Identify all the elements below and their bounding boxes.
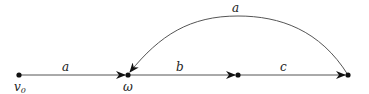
edge-label-n3-omega: a (232, 1, 239, 15)
edge-n3-omega-curved (130, 16, 348, 75)
edge-label-n2-n3: c (280, 60, 287, 74)
node-label-omega: ω (123, 80, 133, 94)
edge-label-omega-n2: b (176, 60, 184, 74)
node-v0 (16, 72, 21, 77)
graph-diagram: a b c a v0 ω (0, 0, 369, 94)
node-n3 (345, 72, 350, 77)
node-n2 (235, 72, 240, 77)
node-label-v0: v0 (14, 80, 26, 94)
edge-label-v0-omega: a (62, 60, 69, 74)
node-omega (125, 72, 130, 77)
